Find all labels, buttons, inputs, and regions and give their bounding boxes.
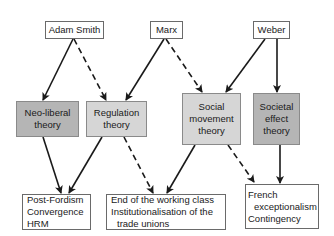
node-label: Weber bbox=[258, 24, 286, 36]
edge-social-movement-french bbox=[228, 145, 254, 182]
node-label-line: Societal bbox=[260, 101, 294, 113]
node-marx: Marx bbox=[150, 21, 183, 39]
edge-weber-social-movement bbox=[226, 39, 265, 92]
node-label-line: movement bbox=[189, 113, 233, 125]
node-label-line: Social bbox=[199, 101, 225, 113]
node-societal-effect-theory: Societal effect theory bbox=[253, 93, 300, 145]
node-label-line: Neo-liberal bbox=[25, 107, 71, 119]
node-french-exceptionalism: French exceptionalism Contingency bbox=[245, 184, 319, 229]
node-label: Marx bbox=[156, 24, 177, 36]
edge-neo-liberal-post-fordism bbox=[43, 137, 61, 193]
node-label-line: theory bbox=[34, 119, 60, 131]
node-label-line: Convergence bbox=[27, 206, 84, 218]
node-label-line: effect bbox=[265, 113, 288, 125]
node-regulation-theory: Regulation theory bbox=[86, 101, 147, 137]
node-label-line: trade unions bbox=[111, 218, 169, 230]
node-weber: Weber bbox=[253, 21, 290, 39]
edge-regulation-working-class bbox=[124, 137, 153, 193]
node-label-line: theory bbox=[198, 125, 224, 137]
edge-marx-regulation bbox=[126, 39, 164, 100]
node-adam-smith: Adam Smith bbox=[45, 21, 104, 39]
edge-regulation-post-fordism bbox=[69, 137, 102, 193]
node-label-line: exceptionalism bbox=[248, 201, 317, 213]
edge-adam-smith-neo-liberal bbox=[43, 39, 73, 100]
node-label-line: Regulation bbox=[94, 107, 139, 119]
node-label-line: Contingency bbox=[248, 213, 301, 225]
node-label-line: Institutionalisation of the bbox=[111, 206, 213, 218]
node-label-line: theory bbox=[263, 125, 289, 137]
node-label-line: End of the working class bbox=[111, 194, 214, 206]
node-label-line: HRM bbox=[27, 218, 49, 230]
edge-adam-smith-regulation bbox=[74, 39, 106, 100]
edge-marx-social-movement bbox=[166, 39, 202, 92]
node-social-movement-theory: Social movement theory bbox=[182, 93, 241, 145]
node-label-line: theory bbox=[103, 119, 129, 131]
edge-social-movement-working-class bbox=[167, 145, 195, 193]
node-label-line: Post-Fordism bbox=[27, 194, 83, 206]
node-neo-liberal-theory: Neo-liberal theory bbox=[16, 101, 79, 137]
node-post-fordism: Post-Fordism Convergence HRM bbox=[22, 194, 91, 230]
node-label-line: French bbox=[248, 189, 278, 201]
node-label: Adam Smith bbox=[49, 24, 101, 36]
node-end-of-working-class: End of the working class Institutionalis… bbox=[106, 194, 226, 230]
